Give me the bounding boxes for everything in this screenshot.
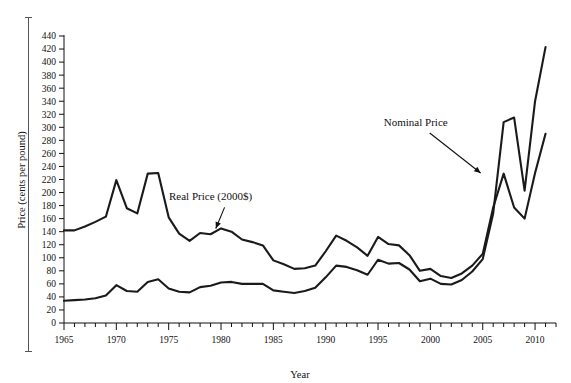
x-tick-label: 1970: [107, 335, 126, 345]
data-series-group: [64, 47, 546, 301]
y-tick-label: 340: [42, 97, 57, 107]
y-tick-label: 380: [42, 71, 57, 81]
y-tick-label: 320: [42, 110, 57, 120]
y-axis-title: Price (cents per pound): [16, 131, 28, 229]
x-tick-label: 2010: [526, 335, 545, 345]
y-tick-label: 140: [42, 227, 57, 237]
annotation-label-nominal-price: Nominal Price: [384, 116, 448, 128]
annotations-group: Real Price (2000$)Nominal Price: [169, 116, 481, 228]
y-axis: 0204060801001201401601802002202402602803…: [42, 31, 64, 328]
x-axis-title: Year: [290, 369, 310, 380]
y-tick-label: 180: [42, 201, 57, 211]
x-tick-label: 1985: [264, 335, 283, 345]
series-line-real-price: [64, 134, 546, 278]
y-tick-label: 300: [42, 123, 57, 133]
y-tick-label: 280: [42, 136, 57, 146]
x-tick-label: 2000: [421, 335, 440, 345]
y-tick-label: 40: [47, 292, 57, 302]
y-tick-label: 60: [47, 279, 57, 289]
x-tick-label: 1975: [159, 335, 178, 345]
annotation-arrow-line: [430, 133, 481, 173]
annotation-arrow-head: [474, 167, 481, 173]
x-tick-label: 1995: [369, 335, 388, 345]
x-tick-label: 1980: [212, 335, 231, 345]
annotation-label-real-price: Real Price (2000$): [169, 190, 252, 203]
y-tick-label: 20: [47, 305, 57, 315]
y-tick-label: 100: [42, 253, 57, 263]
y-tick-label: 120: [42, 240, 57, 250]
y-tick-label: 240: [42, 162, 57, 172]
y-tick-label: 0: [51, 318, 56, 328]
page-margin-rule: [28, 17, 29, 352]
y-tick-label: 80: [47, 266, 57, 276]
y-tick-label: 360: [42, 84, 57, 94]
x-tick-label: 2005: [473, 335, 492, 345]
series-line-nominal-price: [64, 47, 546, 301]
y-tick-label: 200: [42, 188, 57, 198]
y-tick-label: 420: [42, 44, 57, 54]
y-tick-label: 400: [42, 57, 57, 67]
price-line-chart: 0204060801001201401601802002202402602803…: [0, 0, 571, 383]
y-tick-label: 260: [42, 149, 57, 159]
x-tick-label: 1990: [316, 335, 335, 345]
y-tick-label: 440: [42, 31, 57, 41]
y-tick-label: 160: [42, 214, 57, 224]
figure-container: 0204060801001201401601802002202402602803…: [0, 0, 571, 383]
x-tick-label: 1965: [55, 335, 74, 345]
x-axis: 1965197019751980198519901995200020052010: [55, 323, 557, 345]
y-tick-label: 220: [42, 175, 57, 185]
